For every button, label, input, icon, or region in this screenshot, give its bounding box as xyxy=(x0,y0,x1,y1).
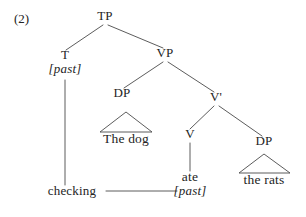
branch-vp-to-vbar xyxy=(168,62,214,92)
node-v-bar: V' xyxy=(210,90,222,103)
node-v: V xyxy=(185,127,195,140)
leaf-subject: The dog xyxy=(103,132,149,145)
annotation-checking: checking xyxy=(48,184,97,197)
triangle-dp_obj xyxy=(239,154,290,173)
branch-vbar-to-dp_obj xyxy=(219,106,262,136)
leaf-verb-feature: [past] xyxy=(174,184,207,197)
node-vp: VP xyxy=(156,46,173,59)
leaf-object: the rats xyxy=(244,173,285,186)
triangle-dp_subj xyxy=(100,112,152,132)
leaf-verb: ate xyxy=(182,170,198,183)
branch-tp-to-vp xyxy=(108,25,163,48)
branch-tp-to-t xyxy=(66,25,103,50)
node-tp: TP xyxy=(97,9,113,22)
node-dp-object: DP xyxy=(255,134,272,147)
node-dp-subject: DP xyxy=(113,86,130,99)
node-t-feature: [past] xyxy=(49,62,82,75)
syntax-tree-figure: (2) TP T [past] VP DP V' The dog V DP th… xyxy=(0,0,306,217)
node-t: T xyxy=(61,48,69,61)
